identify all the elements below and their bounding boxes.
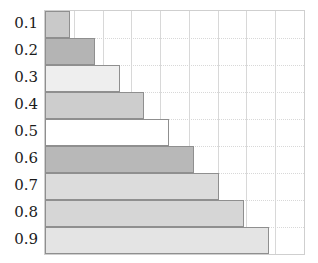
bar-0-2[interactable]: [45, 38, 95, 65]
bar-chart: 0.10.20.30.40.50.60.70.80.9: [0, 0, 318, 263]
gridline-vertical: [275, 11, 276, 254]
bar-0-4[interactable]: [45, 92, 144, 119]
plot-area: [44, 10, 305, 255]
y-tick-label-0-9: 0.9: [0, 232, 38, 247]
y-tick-label-0-5: 0.5: [0, 124, 38, 139]
bar-0-3[interactable]: [45, 65, 120, 92]
bar-0-8[interactable]: [45, 200, 244, 227]
bar-0-5[interactable]: [45, 119, 169, 146]
bar-0-1[interactable]: [45, 11, 70, 38]
bar-0-6[interactable]: [45, 146, 194, 173]
bar-0-7[interactable]: [45, 173, 219, 200]
y-tick-label-0-3: 0.3: [0, 70, 38, 85]
y-tick-label-0-4: 0.4: [0, 97, 38, 112]
gridline-vertical: [246, 11, 247, 254]
y-tick-label-0-1: 0.1: [0, 16, 38, 31]
y-tick-label-0-8: 0.8: [0, 205, 38, 220]
y-tick-label-0-7: 0.7: [0, 178, 38, 193]
y-tick-label-0-2: 0.2: [0, 43, 38, 58]
y-tick-label-0-6: 0.6: [0, 151, 38, 166]
bar-0-9[interactable]: [45, 227, 269, 254]
